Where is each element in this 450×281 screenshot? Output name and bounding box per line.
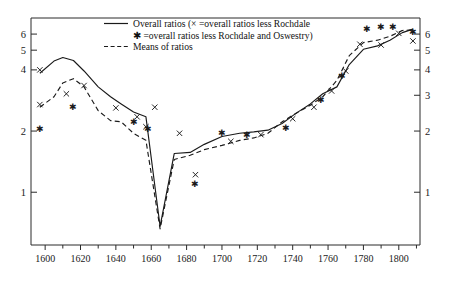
scatter-marker-star: ✱ bbox=[317, 95, 325, 105]
y-axis-left-tick-label: 4 bbox=[21, 64, 27, 75]
scatter-marker-x bbox=[193, 172, 198, 177]
scatter-marker-star: ✱ bbox=[363, 24, 371, 34]
y-axis-right-tick-label: 1 bbox=[425, 187, 430, 198]
series-line-means-of-ratios bbox=[40, 30, 413, 229]
scatter-marker-x bbox=[64, 91, 69, 96]
y-axis-right-tick-label: 3 bbox=[425, 90, 430, 101]
scatter-marker-star: ✱ bbox=[389, 22, 397, 32]
x-axis-tick-label: 1600 bbox=[35, 253, 55, 264]
scatter-marker-star: ✱ bbox=[409, 27, 417, 37]
scatter-marker-star: ✱ bbox=[243, 130, 251, 140]
y-axis-left-tick-label: 2 bbox=[21, 126, 26, 137]
y-axis-left-tick-label: 1 bbox=[21, 187, 26, 198]
chart-container: 1600162016401660168017001720174017601780… bbox=[0, 0, 450, 281]
series-line-overall-ratios bbox=[40, 29, 413, 226]
x-axis-tick-label: 1660 bbox=[141, 253, 161, 264]
scatter-marker-x bbox=[290, 116, 295, 121]
x-axis-tick-label: 1720 bbox=[247, 253, 267, 264]
scatter-marker-x bbox=[37, 102, 42, 107]
x-axis-tick-label: 1640 bbox=[106, 253, 126, 264]
scatter-marker-x bbox=[410, 38, 415, 43]
scatter-marker-star: ✱ bbox=[377, 22, 385, 32]
legend-label-overall-ratios-note: ✱ =overall ratios less Rochdale and Oswe… bbox=[133, 30, 313, 42]
x-axis-tick-label: 1780 bbox=[353, 253, 373, 264]
y-axis-right-tick-label: 2 bbox=[425, 126, 430, 137]
y-axis-left-tick-label: 6 bbox=[21, 29, 26, 40]
x-axis-tick-label: 1800 bbox=[389, 253, 409, 264]
x-axis-tick-label: 1620 bbox=[71, 253, 91, 264]
y-axis-right-tick-label: 6 bbox=[425, 29, 430, 40]
y-axis-right-tick-label: 5 bbox=[425, 45, 430, 56]
x-axis-tick-label: 1680 bbox=[177, 253, 197, 264]
scatter-marker-x bbox=[152, 105, 157, 110]
scatter-marker-star: ✱ bbox=[191, 179, 199, 189]
scatter-marker-x bbox=[37, 67, 42, 72]
scatter-marker-star: ✱ bbox=[338, 71, 346, 81]
legend-label-means-of-ratios: Means of ratios bbox=[133, 41, 193, 52]
scatter-marker-star: ✱ bbox=[282, 123, 290, 133]
scatter-marker-x bbox=[311, 105, 316, 110]
scatter-marker-star: ✱ bbox=[130, 117, 138, 127]
x-axis-tick-label: 1740 bbox=[283, 253, 303, 264]
scatter-marker-star: ✱ bbox=[69, 102, 77, 112]
y-axis-left-tick-label: 5 bbox=[21, 45, 26, 56]
scatter-marker-x bbox=[113, 105, 118, 110]
scatter-marker-star: ✱ bbox=[36, 124, 44, 134]
legend-label-overall-ratios: Overall ratios (× =overall ratios less R… bbox=[133, 18, 310, 30]
ratios-line-chart: 1600162016401660168017001720174017601780… bbox=[0, 0, 450, 281]
x-axis-tick-label: 1700 bbox=[212, 253, 232, 264]
scatter-marker-x bbox=[177, 131, 182, 136]
x-axis-tick-label: 1760 bbox=[318, 253, 338, 264]
y-axis-right-tick-label: 4 bbox=[425, 64, 431, 75]
scatter-marker-star: ✱ bbox=[218, 128, 226, 138]
scatter-marker-star: ✱ bbox=[144, 124, 152, 134]
